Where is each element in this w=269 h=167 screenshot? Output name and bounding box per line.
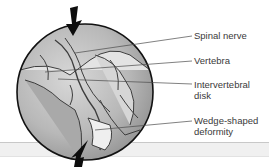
label-spinal-nerve: Spinal nerve <box>194 30 247 41</box>
label-vertebra: Vertebra <box>194 55 230 66</box>
label-wedge-shaped-deformity: Wedge-shaped deformity <box>194 115 258 137</box>
label-intervertebral-disk: Intervertebral disk <box>194 79 250 101</box>
